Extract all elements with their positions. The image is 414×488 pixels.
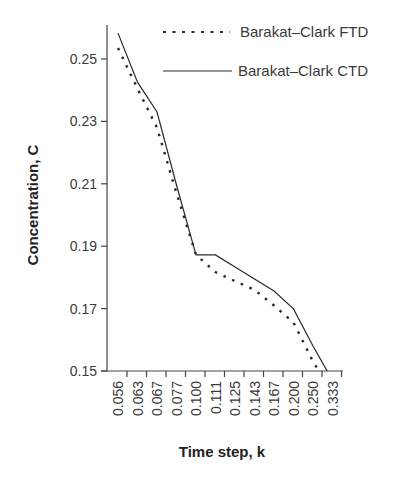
x-tick-label: 0.333 <box>325 381 341 416</box>
x-tick-label: 0.063 <box>130 381 146 416</box>
legend-label-ctd: Barakat–Clark CTD <box>238 62 368 79</box>
y-tick-label: 0.15 <box>70 363 97 379</box>
x-tick-label: 0.077 <box>169 381 185 416</box>
x-tick-label: 0.111 <box>208 381 224 414</box>
series-line-ctd <box>118 33 333 380</box>
x-tick-label: 0.056 <box>110 381 126 416</box>
legend: Barakat–Clark FTD Barakat–Clark CTD <box>163 23 369 79</box>
y-tick-label: 0.17 <box>70 301 97 317</box>
x-tick-label: 0.143 <box>247 381 263 416</box>
y-axis: 0.150.170.190.210.230.25 <box>70 25 107 379</box>
x-tick-label: 0.200 <box>286 381 302 416</box>
x-axis: 0.0560.0630.0670.0770.1000.1110.1250.143… <box>101 371 343 416</box>
y-tick-label: 0.19 <box>70 238 97 254</box>
x-tick-label: 0.250 <box>305 381 321 416</box>
x-tick-label: 0.067 <box>149 381 165 416</box>
x-tick-label: 0.167 <box>266 381 282 416</box>
series-line-ftd <box>118 48 333 393</box>
y-tick-label: 0.23 <box>70 113 97 129</box>
series-layer <box>118 33 333 393</box>
legend-label-ftd: Barakat–Clark FTD <box>240 23 369 40</box>
line-chart: 0.150.170.190.210.230.25 0.0560.0630.067… <box>0 0 414 488</box>
y-tick-label: 0.25 <box>70 51 97 67</box>
y-tick-label: 0.21 <box>70 176 97 192</box>
y-axis-title: Concentration, C <box>24 144 41 265</box>
x-tick-label: 0.100 <box>188 381 204 416</box>
x-axis-title: Time step, k <box>179 443 266 460</box>
x-tick-label: 0.125 <box>227 381 243 416</box>
